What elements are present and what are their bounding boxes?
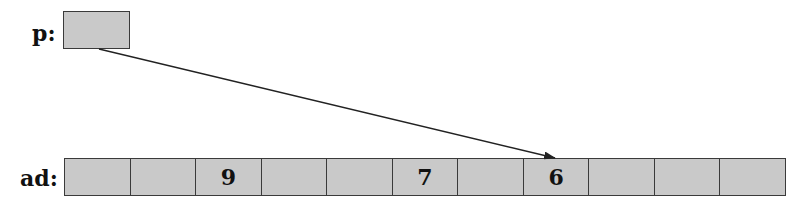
array-cell-8 bbox=[589, 159, 655, 195]
array-cell-7: 6 bbox=[524, 159, 590, 195]
pointer-label: p: bbox=[32, 22, 56, 44]
array-cell-4 bbox=[327, 159, 393, 195]
pointer-box bbox=[63, 11, 130, 49]
array-cell-2: 9 bbox=[196, 159, 262, 195]
array-ad: 9 7 6 bbox=[64, 158, 786, 196]
array-cell-5: 7 bbox=[393, 159, 459, 195]
array-cell-10 bbox=[720, 159, 785, 195]
array-cell-6 bbox=[458, 159, 524, 195]
array-cell-1 bbox=[131, 159, 197, 195]
array-cell-3 bbox=[262, 159, 328, 195]
array-label: ad: bbox=[20, 167, 58, 189]
array-cell-9 bbox=[655, 159, 721, 195]
array-cell-0 bbox=[65, 159, 131, 195]
